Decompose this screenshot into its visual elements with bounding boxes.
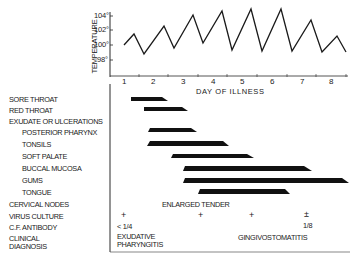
diagnosis-gingivostomatitis: GINGIVOSTOMATITIS [238,234,307,241]
symptom-bars [131,97,349,194]
bar-posterior-pharynx [148,128,197,132]
diagnosis-pharyngitis: PHARYNGITIS [117,241,163,248]
x-tick-4: 4 [211,77,215,86]
label-sore-throat: SORE THROAT [9,96,58,103]
label-cf-antibody: C.F. ANTIBODY [9,224,57,231]
x-tick-2: 2 [151,77,155,86]
bar-tonsils [147,141,229,146]
x-tick-1: 1 [122,77,126,86]
temperature-line [124,9,346,54]
antibody-titer-2: 1/8 [303,222,312,229]
y-tick-104: 104° [94,11,109,20]
label-gums: GUMS [22,177,43,184]
label-cervical-nodes: CERVICAL NODES [9,201,69,208]
cervical-nodes-note: ENLARGED TENDER [162,201,230,208]
virus-culture-plusminus: ± [304,210,309,219]
label-tonsils: TONSILS [22,141,51,148]
y-tick-100: 100° [94,40,109,49]
bar-soft-palate [171,154,254,158]
bar-sore-throat [131,97,168,101]
label-diagnosis: DIAGNOSIS [9,243,47,250]
x-tick-6: 6 [270,77,274,86]
bar-buccal-mucosa [183,166,312,171]
antibody-titer-1: < 1/4 [117,223,132,230]
label-exudate: EXUDATE OR ULCERATIONS [9,118,103,125]
virus-culture-plus-1: + [121,211,126,220]
label-soft-palate: SOFT PALATE [22,153,67,160]
bar-gums [183,178,349,183]
label-red-throat: RED THROAT [9,107,53,114]
x-axis-title: DAY OF ILLNESS [196,88,265,96]
label-virus-culture: VIRUS CULTURE [9,213,63,220]
bar-tongue [198,189,290,194]
y-tick-102: 102° [94,25,109,34]
virus-culture-plus-2: + [198,211,203,220]
x-tick-3: 3 [181,77,185,86]
label-tongue: TONGUE [22,189,51,196]
label-posterior-pharynx: POSTERIOR PHARYNX [22,129,97,136]
x-tick-8: 8 [329,77,333,86]
y-tick-98: 98° [97,55,108,64]
x-tick-5: 5 [240,77,244,86]
virus-culture-plus-3: + [249,211,254,220]
x-tick-7: 7 [300,77,304,86]
label-buccal-mucosa: BUCCAL MUCOSA [22,165,82,172]
bar-red-throat [144,107,188,111]
